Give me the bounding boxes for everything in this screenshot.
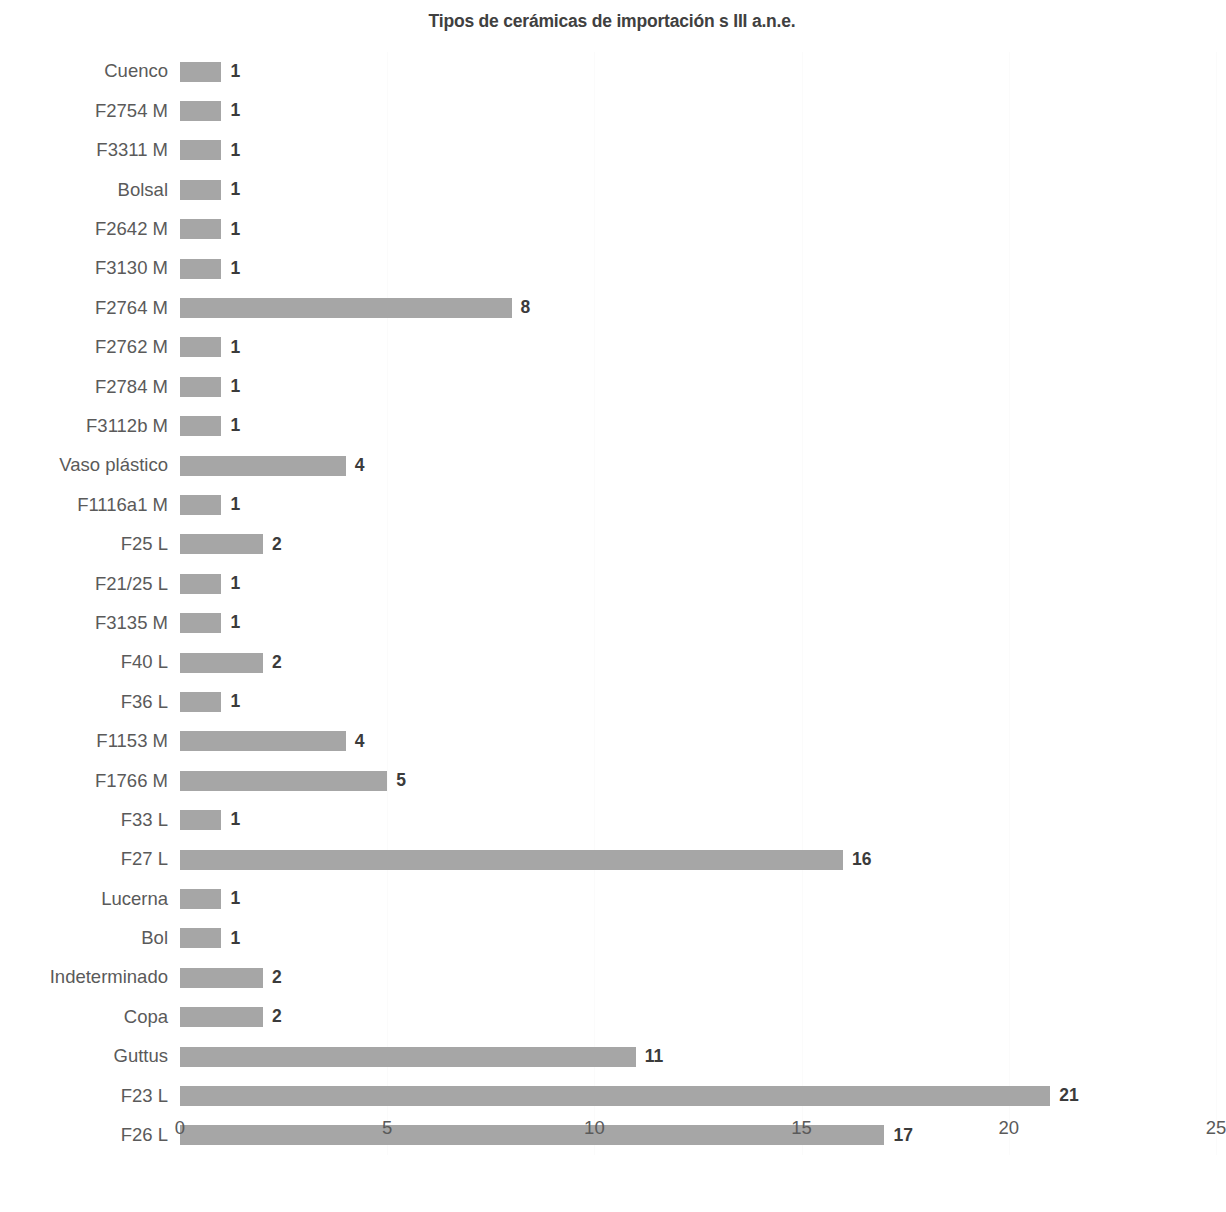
bar-group: 11 — [180, 1037, 663, 1076]
bar[interactable] — [180, 692, 221, 712]
bar[interactable] — [180, 101, 221, 121]
bar-group: 1 — [180, 919, 240, 958]
bar-group: 1 — [180, 91, 240, 130]
x-axis-tick-label: 0 — [175, 1117, 185, 1139]
bar-row: Vaso plástico4 — [0, 446, 1224, 485]
bar[interactable] — [180, 259, 221, 279]
bar-row: F3130 M1 — [0, 249, 1224, 288]
bar-value-label: 1 — [230, 181, 240, 199]
bar[interactable] — [180, 968, 263, 988]
bar-row: Bolsal1 — [0, 170, 1224, 209]
bar-group: 1 — [180, 249, 240, 288]
bar-group: 1 — [180, 328, 240, 367]
bar-group: 1 — [180, 367, 240, 406]
bar-value-label: 1 — [230, 260, 240, 278]
chart-title: Tipos de cerámicas de importación s III … — [0, 11, 1224, 32]
category-label: Bolsal — [0, 181, 168, 200]
category-label: F2764 M — [0, 299, 168, 318]
bar[interactable] — [180, 1047, 636, 1067]
bar-group: 1 — [180, 131, 240, 170]
bar-row: Guttus11 — [0, 1037, 1224, 1076]
bar-row: F2764 M8 — [0, 288, 1224, 327]
bar-value-label: 2 — [272, 1008, 282, 1026]
category-label: F3135 M — [0, 614, 168, 633]
bar-row: F21/25 L1 — [0, 564, 1224, 603]
bar-value-label: 2 — [272, 536, 282, 554]
bar[interactable] — [180, 534, 263, 554]
bar-value-label: 1 — [230, 890, 240, 908]
bar-group: 2 — [180, 958, 282, 997]
bar-value-label: 1 — [230, 142, 240, 160]
bar-row: F2784 M1 — [0, 367, 1224, 406]
bar[interactable] — [180, 771, 387, 791]
bar[interactable] — [180, 850, 843, 870]
bar-value-label: 8 — [521, 299, 531, 317]
bar[interactable] — [180, 810, 221, 830]
bar[interactable] — [180, 574, 221, 594]
bar[interactable] — [180, 456, 346, 476]
bar[interactable] — [180, 928, 221, 948]
bar[interactable] — [180, 1007, 263, 1027]
category-label: Indeterminado — [0, 968, 168, 987]
bar[interactable] — [180, 731, 346, 751]
bar-value-label: 1 — [230, 811, 240, 829]
category-label: F36 L — [0, 693, 168, 712]
bar-value-label: 11 — [645, 1048, 664, 1066]
bar-group: 8 — [180, 288, 530, 327]
bar-value-label: 5 — [396, 772, 406, 790]
bar-group: 1 — [180, 604, 240, 643]
bar-row: F1116a1 M1 — [0, 485, 1224, 524]
category-label: F1153 M — [0, 732, 168, 751]
x-axis-tick-label: 5 — [382, 1117, 392, 1139]
category-label: F40 L — [0, 653, 168, 672]
category-label: F2754 M — [0, 102, 168, 121]
category-label: F1766 M — [0, 772, 168, 791]
category-label: F3311 M — [0, 141, 168, 160]
category-label: F26 L — [0, 1126, 168, 1145]
bar-row: Copa2 — [0, 997, 1224, 1036]
bar-group: 2 — [180, 525, 282, 564]
bar[interactable] — [180, 495, 221, 515]
bar-value-label: 1 — [230, 693, 240, 711]
bar-group: 16 — [180, 840, 872, 879]
bar-group: 1 — [180, 879, 240, 918]
bar-value-label: 1 — [230, 417, 240, 435]
bar-group: 1 — [180, 407, 240, 446]
bar-group: 4 — [180, 722, 364, 761]
bar-row: Indeterminado2 — [0, 958, 1224, 997]
bar-value-label: 1 — [230, 63, 240, 81]
bar-row: F1766 M5 — [0, 761, 1224, 800]
bar[interactable] — [180, 416, 221, 436]
bar-row: F2642 M1 — [0, 210, 1224, 249]
category-label: F2642 M — [0, 220, 168, 239]
bar[interactable] — [180, 298, 512, 318]
bar-value-label: 2 — [272, 969, 282, 987]
bar[interactable] — [180, 613, 221, 633]
bar-row: F40 L2 — [0, 643, 1224, 682]
x-axis-tick-label: 15 — [791, 1117, 812, 1139]
bar-value-label: 1 — [230, 102, 240, 120]
category-label: Cuenco — [0, 62, 168, 81]
bar-group: 1 — [180, 52, 240, 91]
bar[interactable] — [180, 377, 221, 397]
bar-row: Lucerna1 — [0, 879, 1224, 918]
category-label: Guttus — [0, 1047, 168, 1066]
category-label: F21/25 L — [0, 575, 168, 594]
bar[interactable] — [180, 653, 263, 673]
bar-group: 1 — [180, 170, 240, 209]
category-label: F1116a1 M — [0, 496, 168, 515]
bar-row: F33 L1 — [0, 800, 1224, 839]
bar[interactable] — [180, 889, 221, 909]
bar-group: 1 — [180, 800, 240, 839]
x-axis: 0510152025 — [180, 1103, 1216, 1153]
bar[interactable] — [180, 219, 221, 239]
bar-row: F3311 M1 — [0, 131, 1224, 170]
bar[interactable] — [180, 140, 221, 160]
category-label: Copa — [0, 1008, 168, 1027]
category-label: F2762 M — [0, 338, 168, 357]
bar[interactable] — [180, 337, 221, 357]
bar[interactable] — [180, 180, 221, 200]
bar[interactable] — [180, 62, 221, 82]
bar-row: F3112b M1 — [0, 407, 1224, 446]
